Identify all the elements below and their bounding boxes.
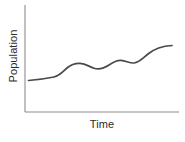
x-axis-label: Time	[25, 118, 179, 130]
x-axis-label-text: Time	[90, 118, 114, 130]
population-data-line	[29, 46, 173, 81]
population-over-time-line-chart: Population Time	[0, 0, 185, 142]
y-axis-label: Population	[0, 0, 24, 112]
y-axis-label-text: Population	[6, 30, 18, 83]
